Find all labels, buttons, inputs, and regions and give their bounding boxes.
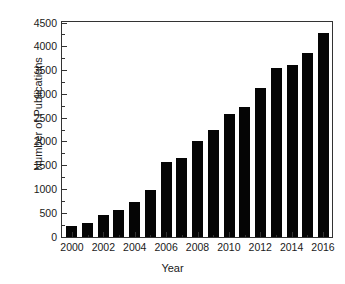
plot-area bbox=[61, 21, 333, 238]
x-axis-tick bbox=[292, 232, 293, 238]
x-axis-tick bbox=[229, 232, 230, 238]
bar bbox=[145, 190, 156, 237]
y-axis-minor-tick bbox=[61, 130, 65, 131]
y-axis-tick-label: 1000 bbox=[5, 183, 57, 195]
y-axis-minor-tick bbox=[61, 201, 65, 202]
y-axis-minor-tick bbox=[61, 58, 65, 59]
x-axis-minor-tick bbox=[150, 235, 151, 239]
bar bbox=[192, 141, 203, 237]
bar bbox=[208, 130, 219, 237]
bar bbox=[176, 158, 187, 237]
y-axis-minor-tick bbox=[61, 106, 65, 107]
y-axis-tick bbox=[61, 189, 67, 190]
y-axis-tick bbox=[61, 46, 67, 47]
x-axis-minor-tick bbox=[276, 235, 277, 239]
y-axis-minor-tick bbox=[61, 177, 65, 178]
y-axis-minor-tick bbox=[61, 82, 65, 83]
bar-series bbox=[62, 22, 332, 237]
publications-bar-chart: Number of Publications 05001000150020002… bbox=[0, 0, 345, 284]
y-axis-tick-label: 500 bbox=[5, 207, 57, 219]
x-axis-minor-tick bbox=[307, 235, 308, 239]
bar bbox=[113, 210, 124, 237]
y-axis-tick bbox=[61, 165, 67, 166]
y-axis-minor-tick bbox=[61, 225, 65, 226]
x-axis-minor-tick bbox=[88, 235, 89, 239]
bar bbox=[239, 107, 250, 237]
x-axis-tick bbox=[135, 232, 136, 238]
y-axis-tick bbox=[61, 141, 67, 142]
y-axis-minor-tick bbox=[61, 153, 65, 154]
x-axis-tick-label: 2016 bbox=[301, 241, 345, 253]
x-axis-tick bbox=[72, 232, 73, 238]
x-axis-minor-tick bbox=[119, 235, 120, 239]
x-axis-tick bbox=[323, 232, 324, 238]
x-axis-tick bbox=[103, 232, 104, 238]
y-axis-tick bbox=[61, 237, 67, 238]
y-axis-tick-label: 1500 bbox=[5, 159, 57, 171]
y-axis-minor-tick bbox=[61, 34, 65, 35]
x-axis-tick bbox=[198, 232, 199, 238]
bar bbox=[255, 88, 266, 237]
y-axis-tick bbox=[61, 118, 67, 119]
y-axis-tick bbox=[61, 94, 67, 95]
x-axis-minor-tick bbox=[213, 235, 214, 239]
y-axis-tick-label: 2000 bbox=[5, 135, 57, 147]
bar bbox=[224, 114, 235, 237]
y-axis-tick-label: 4500 bbox=[5, 17, 57, 29]
bar bbox=[161, 162, 172, 237]
y-axis-tick-label: 3500 bbox=[5, 64, 57, 76]
bar bbox=[287, 65, 298, 237]
y-axis-tick-label: 4000 bbox=[5, 40, 57, 52]
x-axis-tick bbox=[260, 232, 261, 238]
y-axis-tick-label: 2500 bbox=[5, 112, 57, 124]
y-axis-tick bbox=[61, 23, 67, 24]
bar bbox=[302, 53, 313, 238]
y-axis-tick bbox=[61, 213, 67, 214]
x-axis-minor-tick bbox=[245, 235, 246, 239]
x-axis-tick bbox=[166, 232, 167, 238]
y-axis-tick-label: 3000 bbox=[5, 88, 57, 100]
bar bbox=[318, 33, 329, 237]
y-axis-tick bbox=[61, 70, 67, 71]
bar bbox=[271, 68, 282, 237]
x-axis-minor-tick bbox=[182, 235, 183, 239]
x-axis-title: Year bbox=[0, 262, 345, 274]
